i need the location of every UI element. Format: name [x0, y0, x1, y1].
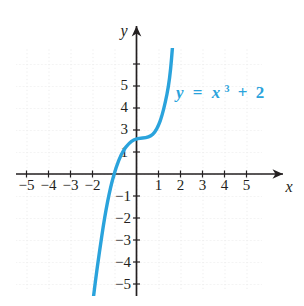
graph-figure: −5 −4 −3 −2 1 2 3 4 5 5 4 3 1 −1 −2 −3 −… — [0, 0, 304, 306]
x-tick-label: −5 — [19, 177, 35, 193]
x-tick-label: −3 — [63, 177, 79, 193]
x-tick-label: 5 — [243, 177, 251, 193]
equation-plus: + — [238, 83, 248, 102]
y-tick-label: −5 — [115, 276, 131, 292]
y-tick-label: 4 — [121, 99, 129, 115]
x-tick-label: −4 — [41, 177, 57, 193]
y-tick-label: −2 — [115, 210, 131, 226]
equation-constant: 2 — [256, 83, 265, 102]
x-tick-label: 1 — [155, 177, 163, 193]
x-axis-label: x — [284, 178, 292, 195]
equation-exponent: 3 — [224, 83, 229, 94]
y-tick-label: −1 — [115, 188, 131, 204]
x-tick-label: 2 — [177, 177, 185, 193]
y-tick-label: −4 — [115, 254, 131, 270]
y-axis-label: y — [118, 22, 128, 40]
x-tick-label: 4 — [221, 177, 229, 193]
x-tick-label: −2 — [85, 177, 101, 193]
y-tick-label: 5 — [121, 77, 129, 93]
equation-base: x — [211, 83, 221, 102]
equation-lhs: y — [174, 83, 184, 102]
cartesian-plot: −5 −4 −3 −2 1 2 3 4 5 5 4 3 1 −1 −2 −3 −… — [0, 0, 304, 306]
y-tick-label: 3 — [121, 121, 129, 137]
equation-equals: = — [193, 83, 203, 102]
x-tick-label: 3 — [199, 177, 207, 193]
y-tick-label: −3 — [115, 232, 131, 248]
